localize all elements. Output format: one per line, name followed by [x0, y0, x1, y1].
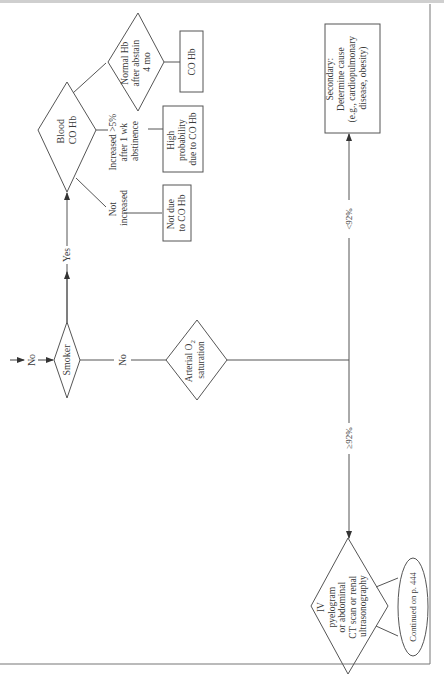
yes-connector: Yes: [62, 193, 72, 322]
yes-label: Yes: [62, 248, 72, 262]
not-increased-label: Not increased: [108, 190, 129, 226]
secondary-cause-box: Secondary: Determine cause (e.g., cardio…: [325, 24, 380, 133]
flowchart-canvas: No Smoker Yes Blood CO Hb Not increased: [0, 0, 444, 676]
smoker-label: Smoker: [61, 344, 72, 376]
arterial-o2-line-2: saturation: [196, 341, 206, 379]
normal-hb-line-2: after abstain: [131, 40, 141, 87]
result-high-probability-box: High probability due to CO Hb: [163, 106, 203, 172]
high-saturation-label: ≥92%: [344, 427, 354, 449]
increased-label: Increased >5% after 1 wk abstinence: [108, 111, 140, 170]
svg-text:Arterial O2 saturation: Arterial O2 saturation: [184, 338, 206, 383]
blood-co-hb-line-1: Blood: [55, 119, 66, 143]
svg-text:Blood CO Hb: Blood CO Hb: [55, 116, 78, 145]
high-saturation-connector: ≥92%: [344, 360, 354, 538]
normal-hb-line-1: Normal Hb: [120, 41, 130, 84]
no-connector: No: [80, 354, 166, 366]
entry-arrow: No: [10, 354, 53, 366]
continued-link[interactable]: Continued on p. 444: [408, 572, 418, 642]
blood-branches: [73, 63, 108, 207]
svg-text:Not due to CO Hb: Not due to CO Hb: [166, 194, 187, 231]
result-co-hb-box: CO Hb: [180, 31, 203, 92]
normal-hb-decision: Normal Hb after abstain 4 mo: [108, 13, 164, 111]
continued-oval[interactable]: Continued on p. 444: [398, 558, 428, 656]
normal-hb-line-3: 4 mo: [142, 52, 152, 72]
arterial-o2-decision: Arterial O2 saturation: [166, 320, 227, 400]
svg-text:CO Hb: CO Hb: [187, 48, 197, 75]
low-saturation-label: <92%: [344, 208, 354, 230]
entry-no-label: No: [26, 354, 37, 366]
blood-co-hb-line-2: CO Hb: [67, 116, 78, 145]
svg-text:High probability d: High probability due to CO Hb: [166, 112, 198, 165]
low-saturation-connector: <92%: [344, 134, 354, 360]
svg-text:Secondary: Determine cau: Secondary: Determine cause (e.g., cardio…: [325, 34, 369, 123]
result-not-due-box: Not due to CO Hb: [163, 185, 191, 241]
blood-co-hb-decision: Blood CO Hb: [38, 82, 96, 192]
imaging-decision: IV pyelogram or abdominal CT scan or ren…: [311, 538, 388, 674]
no-label: No: [118, 354, 128, 366]
smoker-decision: Smoker: [54, 322, 80, 398]
svg-text:Normal Hb after abstain: Normal Hb after abstain 4 mo: [120, 37, 152, 86]
